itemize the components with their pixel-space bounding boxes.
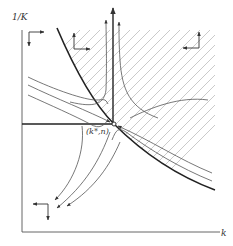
equilibrium-point (112, 122, 116, 126)
equilibrium-label: (k*,n) (86, 127, 109, 136)
phase-diagram: 1/K k (k*,n) (0, 0, 233, 246)
direction-indicator-bottom-left (33, 204, 48, 220)
trajectory-down-1 (55, 126, 83, 200)
x-axis-label: k (221, 228, 226, 238)
hatched-region (0, 30, 233, 230)
trajectory-down-2 (57, 132, 110, 208)
direction-indicator-top-middle (74, 33, 90, 49)
direction-indicator-top-left (29, 32, 44, 46)
y-axis-label: 1/K (12, 12, 29, 22)
trajectory-up-1 (70, 20, 106, 105)
trajectory-up-2 (119, 22, 158, 118)
trajectory-down-3 (67, 142, 120, 206)
